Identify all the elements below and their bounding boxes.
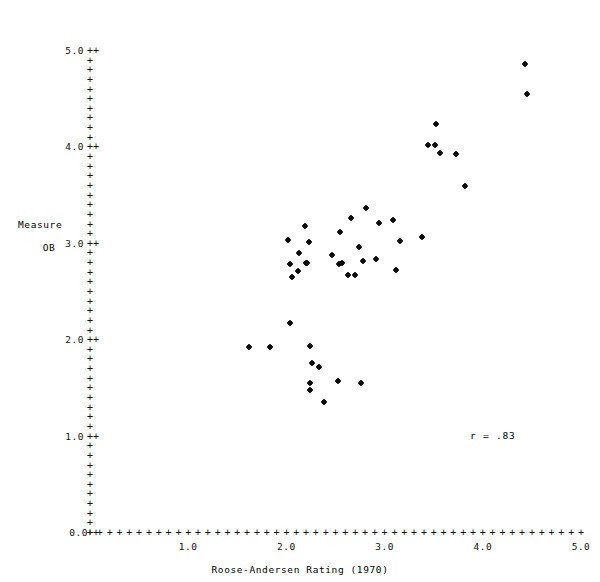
y-tick-label: 1.0 <box>42 432 84 442</box>
x-axis-tick: + <box>558 528 564 538</box>
y-axis-tick: + <box>87 461 93 471</box>
y-axis-tick: + <box>87 480 93 490</box>
y-axis-tick: + <box>87 326 93 336</box>
x-axis-tick: + <box>107 528 113 538</box>
x-axis-tick: + <box>352 528 358 538</box>
data-point <box>361 259 365 263</box>
x-axis-major-tick: + <box>480 528 486 538</box>
x-axis-tick: + <box>264 528 270 538</box>
x-axis-tick: + <box>529 528 535 538</box>
y-axis-tick: + <box>87 403 93 413</box>
data-point <box>353 273 357 277</box>
y-tick-label: 3.0 <box>42 239 84 249</box>
y-axis-tick: + <box>87 162 93 172</box>
data-point <box>525 92 529 96</box>
data-point <box>391 218 395 222</box>
y-axis-tick: + <box>87 56 93 66</box>
x-axis-tick: + <box>313 528 319 538</box>
data-point <box>268 345 272 349</box>
x-axis-tick: + <box>175 528 181 538</box>
y-axis-tick: + <box>87 354 93 364</box>
y-axis-tick: + <box>87 277 93 287</box>
x-axis-tick: + <box>470 528 476 538</box>
data-point <box>247 345 251 349</box>
data-point <box>340 261 344 265</box>
data-point <box>420 235 424 239</box>
data-point <box>286 238 290 242</box>
x-axis-tick: + <box>244 528 250 538</box>
y-axis-tick: + <box>87 489 93 499</box>
x-tick-label: 3.0 <box>365 542 405 552</box>
x-axis-tick: + <box>490 528 496 538</box>
data-point <box>296 269 300 273</box>
y-axis-tick: + <box>87 191 93 201</box>
y-axis-tick: + <box>87 94 93 104</box>
y-axis-tick: + <box>87 268 93 278</box>
y-axis-tick: + <box>87 287 93 297</box>
data-point <box>305 261 309 265</box>
data-point <box>454 152 458 156</box>
x-axis-tick: + <box>519 528 525 538</box>
y-axis-tick: + <box>87 297 93 307</box>
y-axis-major-tick: ++ <box>87 142 99 152</box>
x-axis-tick: + <box>568 528 574 538</box>
data-point <box>338 230 342 234</box>
y-axis-tick: + <box>87 75 93 85</box>
x-axis-tick: + <box>293 528 299 538</box>
y-axis-tick: + <box>87 345 93 355</box>
y-axis-tick: + <box>87 306 93 316</box>
y-axis-tick: + <box>87 229 93 239</box>
x-axis-tick: + <box>224 528 230 538</box>
x-axis-title: Roose-Andersen Rating (1970) <box>0 564 600 575</box>
data-point <box>336 379 340 383</box>
y-axis-tick: + <box>87 499 93 509</box>
x-tick-label: 0.0 <box>46 528 88 538</box>
x-axis-tick: + <box>333 528 339 538</box>
y-axis-tick: + <box>87 181 93 191</box>
x-axis-major-tick: + <box>578 528 584 538</box>
x-axis-tick: + <box>539 528 545 538</box>
x-axis-tick: + <box>303 528 309 538</box>
x-axis-tick: + <box>136 528 142 538</box>
x-axis-tick: + <box>450 528 456 538</box>
y-axis-tick: + <box>87 123 93 133</box>
x-axis-tick: + <box>166 528 172 538</box>
x-axis-tick: + <box>254 528 260 538</box>
data-point <box>330 253 334 257</box>
x-axis-tick: + <box>126 528 132 538</box>
y-axis-major-tick: ++ <box>87 46 99 56</box>
x-tick-label: 5.0 <box>561 542 600 552</box>
data-point <box>357 245 361 249</box>
data-point <box>463 184 467 188</box>
data-point <box>288 321 292 325</box>
data-point <box>303 224 307 228</box>
x-axis-tick: + <box>549 528 555 538</box>
y-tick-label: 4.0 <box>42 142 84 152</box>
data-point <box>438 151 442 155</box>
data-point <box>434 122 438 126</box>
y-axis-tick: + <box>87 220 93 230</box>
x-axis-tick: + <box>234 528 240 538</box>
y-axis-major-tick: ++ <box>87 432 99 442</box>
x-tick-label: 4.0 <box>463 542 503 552</box>
y-axis-tick: + <box>87 422 93 432</box>
y-axis-tick: + <box>87 65 93 75</box>
y-axis-tick: + <box>87 248 93 258</box>
x-axis-tick: + <box>411 528 417 538</box>
data-point <box>398 239 402 243</box>
y-axis-tick: + <box>87 412 93 422</box>
data-point <box>308 344 312 348</box>
y-axis-tick: + <box>87 152 93 162</box>
x-axis-tick: + <box>116 528 122 538</box>
y-axis-tick: + <box>87 200 93 210</box>
scatter-plot-canvas: Measure OB Roose-Andersen Rating (1970) … <box>0 0 600 582</box>
x-axis-major-tick: + <box>185 528 191 538</box>
x-axis-tick: + <box>215 528 221 538</box>
x-axis-tick: + <box>460 528 466 538</box>
x-axis-tick: + <box>323 528 329 538</box>
x-axis-tick: + <box>509 528 515 538</box>
y-axis-tick: + <box>87 470 93 480</box>
x-axis-tick: + <box>362 528 368 538</box>
x-axis-tick: + <box>441 528 447 538</box>
data-point <box>426 143 430 147</box>
